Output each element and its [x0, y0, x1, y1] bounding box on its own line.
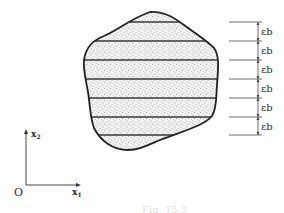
dimension-label: εb	[261, 45, 273, 56]
dimension-label: εb	[261, 26, 273, 37]
origin-label: O	[14, 186, 23, 199]
figure-caption: Fig. 15.3	[142, 204, 187, 213]
dimension-labels: εb εb εb εb εb εb	[261, 26, 273, 132]
dimension-label: εb	[261, 121, 273, 132]
x1-axis-label: x1	[72, 187, 82, 198]
dimension-arrowheads	[257, 22, 260, 135]
x2-arrow-icon	[24, 129, 28, 134]
dimension-ladder	[229, 22, 262, 135]
x2-axis-label: x2	[31, 129, 41, 140]
stippled-region	[80, 12, 222, 150]
figure-canvas: εb εb εb εb εb εb x2 x1 O Fig. 15.3	[0, 0, 284, 213]
dimension-label: εb	[261, 83, 273, 94]
dimension-label: εb	[261, 64, 273, 75]
dimension-label: εb	[261, 102, 273, 113]
